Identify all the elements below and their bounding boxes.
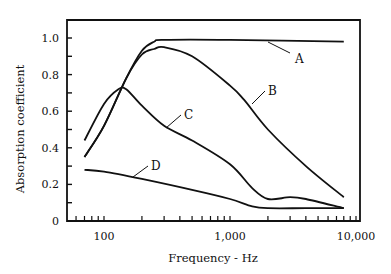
leader-line-d	[133, 166, 148, 177]
leader-line-a	[268, 42, 290, 53]
x-axis: 1001,00010,000	[76, 216, 375, 243]
curve-c	[85, 87, 344, 208]
plot-frame	[67, 20, 360, 221]
curve-a	[85, 40, 344, 157]
curve-label-a: A	[294, 52, 304, 66]
curve-d	[85, 170, 344, 209]
absorption-chart: 00.20.40.60.81.0 1001,00010,000 ABCD Fre…	[0, 0, 391, 274]
y-axis-label: Absorption coefficient	[13, 64, 27, 194]
x-axis-label: Frequency - Hz	[168, 251, 257, 265]
x-tick-label: 1,000	[214, 230, 246, 243]
plot-border	[67, 20, 360, 221]
y-tick-label: 0.6	[42, 105, 60, 118]
leader-line-c	[166, 115, 181, 128]
curve-label-c: C	[184, 108, 193, 122]
y-tick-label: 0.8	[42, 69, 60, 82]
leader-line-b	[252, 91, 265, 104]
x-tick-label: 10,000	[337, 230, 376, 243]
curves	[85, 40, 344, 209]
curve-label-d: D	[151, 159, 161, 173]
y-tick-label: 0.4	[42, 142, 60, 155]
curve-label-b: B	[268, 84, 277, 98]
y-tick-label: 0.2	[42, 178, 60, 191]
x-tick-label: 100	[94, 230, 115, 243]
y-tick-label: 0	[52, 215, 59, 228]
y-tick-label: 1.0	[42, 32, 60, 45]
